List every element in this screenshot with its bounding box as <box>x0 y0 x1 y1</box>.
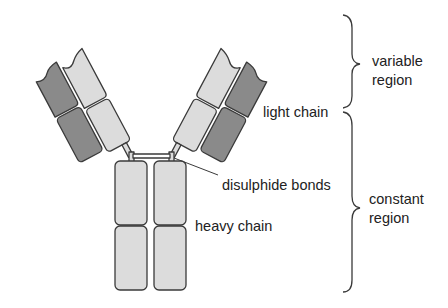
variable-region-brace <box>343 15 360 108</box>
disulphide-bonds-label: disulphide bonds <box>222 177 331 194</box>
stem-right-lower-domain <box>154 226 186 290</box>
variable-region-label-line2: region <box>372 72 412 89</box>
light-chain-label: light chain <box>263 104 328 121</box>
constant-region-brace <box>343 112 360 292</box>
right-arm <box>166 48 271 178</box>
constant-region-label-line1: constant <box>369 191 424 208</box>
constant-region-label-line2: region <box>369 210 409 227</box>
left-arm <box>33 48 138 178</box>
heavy-chain-label: heavy chain <box>195 218 272 235</box>
stem-left-lower-domain <box>115 226 147 290</box>
antibody-diagram <box>0 0 448 308</box>
stem-left-upper-domain <box>115 161 147 225</box>
stem-right-upper-domain <box>154 161 186 225</box>
disulphide-bond <box>133 154 170 158</box>
variable-region-label-line1: variable <box>372 53 423 70</box>
